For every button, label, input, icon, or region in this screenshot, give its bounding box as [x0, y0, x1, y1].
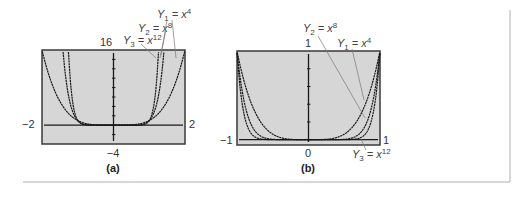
- panel-b-xmax-label: 1: [383, 134, 389, 146]
- power-functions-figure: −2 2 16 −4 (a) Y1 = x4 Y2 = x8 Y3 = x12 …: [0, 0, 531, 197]
- panel-a-caption: (a): [106, 162, 120, 174]
- panel-a-ymax-label: 16: [100, 36, 112, 48]
- panel-a-ymin-label: −4: [107, 147, 120, 159]
- panel-b-y2-annotation: Y2 = x8: [303, 21, 338, 37]
- panel-a-xmin-label: −2: [22, 118, 35, 130]
- panel-b: −1 1 1 0 (b) Y2 = x8 Y1 = x4 Y3 = x12: [220, 21, 391, 174]
- panel-b-caption: (b): [301, 162, 315, 174]
- panel-b-y1-annotation: Y1 = x4: [337, 36, 372, 52]
- panel-b-ymin-label: 0: [305, 147, 311, 159]
- panel-b-ymax-label: 1: [305, 37, 311, 49]
- panel-a-y3-annotation: Y3 = x12: [123, 33, 162, 49]
- panel-a: −2 2 16 −4 (a) Y1 = x4 Y2 = x8 Y3 = x12: [22, 7, 195, 174]
- panel-a-y1-annotation: Y1 = x4: [157, 7, 192, 23]
- panel-a-xmax-label: 2: [189, 118, 195, 130]
- panel-b-xmin-label: −1: [220, 134, 233, 146]
- panel-b-y3-annotation: Y3 = x12: [352, 147, 391, 163]
